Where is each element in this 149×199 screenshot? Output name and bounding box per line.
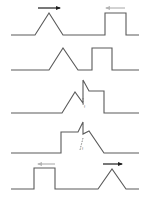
wave-line — [11, 80, 139, 113]
overlap-label: f — [82, 146, 84, 151]
panel-2 — [11, 48, 139, 70]
wave-line — [11, 168, 139, 189]
panel-3: f — [11, 80, 139, 113]
panel-4: f — [11, 122, 139, 153]
wave-line — [11, 13, 139, 35]
overlap-label: f — [84, 104, 86, 109]
pulse-superposition-diagram: f f — [0, 0, 149, 199]
wave-line — [11, 48, 139, 70]
wave-line — [11, 122, 139, 153]
panel-5 — [11, 164, 139, 189]
panel-1 — [11, 8, 139, 35]
